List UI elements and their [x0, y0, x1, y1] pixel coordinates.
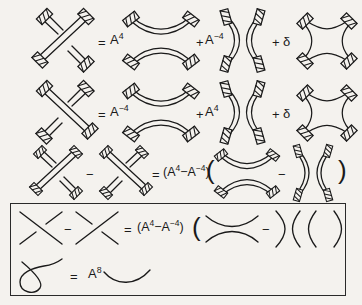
box-line2-coefficient: A8	[88, 267, 102, 280]
row1-plus-2: +	[272, 36, 280, 49]
row1-delta: δ	[283, 35, 290, 48]
row3-coefB-base: A	[188, 165, 196, 179]
ribbon-vertical-smoothing-r3	[293, 144, 332, 201]
ribbon-crossing-positive-r1	[32, 8, 94, 72]
box-line1-coefB-base: A	[162, 220, 170, 234]
figure-sheet: = A4 + A−4 + δ = A−4 + A4 + δ − = (A4−A−…	[0, 0, 362, 305]
ribbon-crossing-positive-r3	[29, 145, 82, 199]
box-line1-minus-2: −	[262, 223, 270, 236]
row1-coef1-exponent: 4	[119, 31, 124, 41]
ribbon-horizontal-smoothing-r1	[123, 11, 200, 70]
box-line1-coefficient-group: (A4−A−4)	[137, 221, 184, 234]
row1-coef2-exponent: −4	[214, 31, 224, 41]
row3-coefB-exponent: −4	[196, 163, 206, 173]
row1-coef2-base: A	[205, 32, 214, 47]
box-line2-coef-base: A	[88, 266, 97, 281]
ribbon-crossing-negative-r3	[99, 145, 152, 199]
row3-rparen-big: )	[338, 157, 347, 183]
row1-plus-1: +	[196, 36, 204, 49]
box-line2-equals: =	[70, 270, 78, 283]
ribbon-vertical-smoothing-r1	[220, 9, 265, 73]
row2-coef1-exponent: −4	[119, 103, 129, 113]
row3-minus-2: −	[278, 168, 286, 181]
ribbon-square-cushion-r1	[297, 13, 357, 69]
row3-equals: =	[152, 168, 160, 181]
box-line1-minus-1: −	[64, 223, 72, 236]
row3-lparen-big: (	[206, 157, 215, 183]
ribbon-horizontal-smoothing-r3	[214, 149, 279, 198]
ribbon-vertical-smoothing-r2	[220, 81, 265, 145]
row3-coefA-base: A	[167, 165, 175, 179]
row1-coefficient-2: A−4	[205, 33, 224, 46]
row2-coef1-base: A	[110, 104, 119, 119]
box-line1-coefA-base: A	[141, 220, 149, 234]
box-line2-coef-exponent: 8	[97, 265, 102, 275]
row2-plus-2: +	[272, 108, 280, 121]
row1-coefficient-1: A4	[110, 33, 124, 46]
row2-coef2-base: A	[205, 104, 214, 119]
ribbon-crossing-negative-r2	[36, 80, 98, 144]
row3-coefficient-group: (A4−A−4)	[163, 166, 210, 179]
row2-delta: δ	[283, 107, 290, 120]
ribbon-square-cushion-r2	[297, 85, 357, 141]
row2-equals: =	[98, 108, 106, 121]
box-line1-equals: =	[124, 223, 132, 236]
row1-coef1-base: A	[110, 32, 119, 47]
row3-coef-minus: −	[180, 165, 187, 179]
row2-coefficient-2: A4	[205, 105, 219, 118]
row1-equals: =	[98, 36, 106, 49]
row2-coefficient-1: A−4	[110, 105, 129, 118]
row3-minus-1: −	[86, 168, 94, 181]
box-line1-coef-minus: −	[154, 220, 161, 234]
box-line1-rparen: )	[180, 220, 184, 234]
ribbon-horizontal-smoothing-r2	[123, 83, 200, 142]
row2-coef2-exponent: 4	[214, 103, 219, 113]
row2-plus-1: +	[196, 108, 204, 121]
box-line1-lparen-big: (	[192, 214, 201, 240]
box-line1-coefB-exponent: −4	[170, 218, 180, 228]
